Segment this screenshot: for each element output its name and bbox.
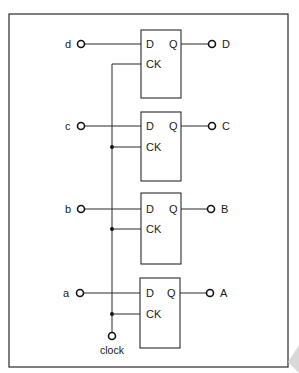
page-corner-artifact (288, 345, 299, 373)
output-label: D (222, 38, 230, 50)
input-terminal (77, 290, 84, 297)
input-terminal (78, 206, 85, 213)
pin-q-label: Q (167, 287, 176, 299)
clock-bus (112, 64, 141, 332)
input-label: a (63, 287, 70, 299)
flipflop-d: d D Q CK D (65, 30, 230, 98)
pin-d-label: D (146, 120, 154, 132)
output-terminal (208, 206, 215, 213)
pin-q-label: Q (169, 120, 178, 132)
input-label: b (65, 203, 71, 215)
pin-d-label: D (146, 38, 154, 50)
pin-ck-label: CK (146, 308, 162, 320)
input-label: c (65, 120, 71, 132)
pin-ck-label: CK (146, 141, 162, 153)
input-label: d (65, 38, 71, 50)
output-label: B (221, 203, 228, 215)
clock-label: clock (100, 344, 125, 356)
pin-q-label: Q (169, 38, 178, 50)
flipflop-b: b D Q CK B (65, 193, 228, 264)
clock-input-terminal (109, 333, 116, 340)
pin-d-label: D (146, 287, 154, 299)
input-terminal (78, 41, 85, 48)
output-terminal (209, 123, 216, 130)
flipflop-c: c D Q CK C (65, 112, 230, 181)
pin-ck-label: CK (146, 223, 162, 235)
output-terminal (207, 290, 214, 297)
output-label: C (222, 120, 230, 132)
pin-ck-label: CK (146, 58, 162, 70)
input-terminal (78, 123, 85, 130)
flipflop-a: a D Q CK A (63, 278, 228, 348)
register-diagram: clock d D Q CK D c D Q CK C b D Q CK (0, 0, 299, 373)
pin-q-label: Q (169, 203, 178, 215)
output-terminal (209, 41, 216, 48)
pin-d-label: D (146, 203, 154, 215)
output-label: A (220, 287, 228, 299)
